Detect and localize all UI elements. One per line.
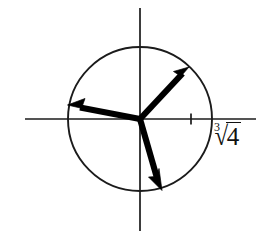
- cube-root-diagram: 3 √4: [0, 0, 268, 236]
- root-vector-2: [68, 99, 141, 120]
- root-vector-1: [140, 67, 189, 119]
- diagram-canvas: [0, 0, 268, 236]
- root-vector-3: [140, 119, 162, 191]
- radical-sign-icon: √: [215, 123, 229, 150]
- cube-root-of-4-label: 3 √4: [214, 122, 241, 150]
- radical-expression: 3 √4: [214, 122, 241, 150]
